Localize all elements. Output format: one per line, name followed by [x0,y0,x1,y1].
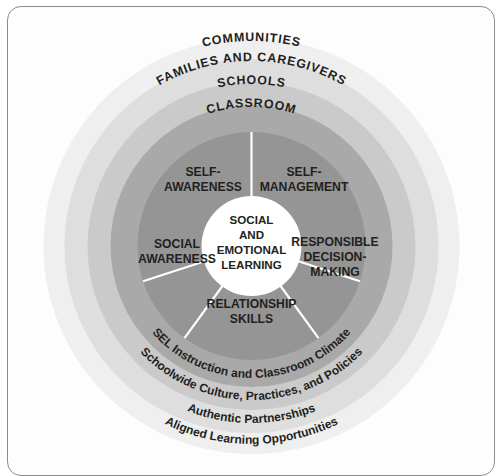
competency-self-management-line-1: SELF- [286,165,321,179]
competency-self-management-line-2: MANAGEMENT [260,180,349,194]
core-label-line-1: SOCIAL [230,213,274,226]
competency-social-awareness-line-2: AWARENESS [138,252,216,266]
core-label-line-3: EMOTIONAL [217,243,287,256]
competency-relationship-skills-line-1: RELATIONSHIP [207,297,297,311]
competency-responsible-decision-making-line-2: DECISION- [304,250,367,264]
competency-self-awareness-line-1: SELF- [185,165,220,179]
competency-relationship-skills-line-2: SKILLS [230,312,273,326]
competency-responsible-decision-making-line-1: RESPONSIBLE [291,235,378,249]
competency-self-awareness-line-2: AWARENESS [164,180,242,194]
core-label-line-2: AND [239,228,264,241]
core-label-line-4: LEARNING [221,258,282,271]
competency-responsible-decision-making-line-3: MAKING [310,265,359,279]
competency-social-awareness-line-1: SOCIAL [154,237,201,251]
